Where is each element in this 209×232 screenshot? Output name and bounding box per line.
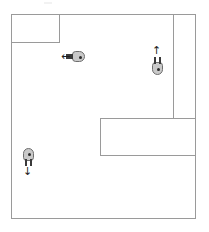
obstacle-top-left-block (11, 14, 60, 43)
robot-bumper-right (159, 57, 161, 64)
robot-bumper-left (154, 57, 156, 64)
direction-arrow-up: ↑ (152, 45, 161, 56)
robot-body (72, 51, 85, 62)
robot-navigation-map: ← ↑ ↓ (0, 0, 209, 232)
top-smudge (44, 2, 52, 4)
robot-sensor-dot (28, 153, 31, 156)
obstacle-bottom-right-block (100, 118, 196, 156)
robot-down-facing[interactable] (23, 148, 34, 161)
robot-left-facing[interactable] (72, 51, 85, 62)
robot-sensor-dot (157, 68, 160, 71)
robot-up-facing[interactable] (152, 62, 163, 75)
right-vertical-wall (173, 14, 174, 119)
direction-arrow-down: ↓ (23, 166, 32, 177)
robot-sensor-dot (79, 56, 82, 59)
arena-boundary (11, 14, 196, 219)
direction-arrow-left: ← (61, 51, 70, 62)
